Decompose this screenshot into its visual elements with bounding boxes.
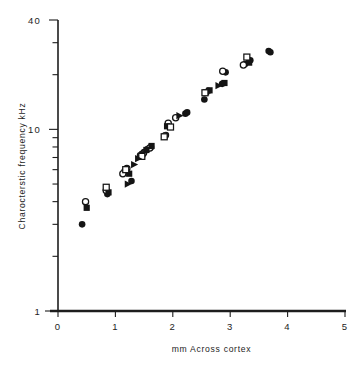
x-axis-tick-label: 5 — [342, 321, 348, 332]
data-point-open-square — [168, 124, 174, 130]
data-point-open-square — [103, 184, 109, 190]
data-point-open-circle — [82, 199, 88, 205]
y-axis-tick-label: 10 — [28, 124, 41, 135]
data-point-filled-circle — [79, 221, 86, 228]
y-axis-tick-label: 1 — [35, 306, 41, 317]
data-point-filled-square — [148, 143, 154, 149]
x-axis-title: mm Across cortex — [172, 344, 251, 354]
data-point-open-square — [244, 54, 250, 60]
data-point-open-circle — [220, 68, 226, 74]
x-axis-tick-label: 3 — [227, 321, 233, 332]
x-axis-tick-label: 2 — [170, 321, 176, 332]
data-point-filled-circle — [201, 96, 208, 103]
y-axis-tick-label: 40 — [28, 15, 41, 26]
tick-group — [45, 20, 345, 317]
x-axis-tick-label: 4 — [284, 321, 290, 332]
data-point-filled-circle — [184, 109, 191, 116]
figure-container: 40101012345 mm Across cortexCharoctersti… — [0, 0, 355, 369]
axes-group — [50, 20, 346, 311]
data-point-open-circle — [240, 62, 246, 68]
x-axis-tick-label: 0 — [55, 321, 61, 332]
y-axis-title: Charocterstic frequency kHz — [17, 103, 27, 230]
data-point-filled-square — [221, 80, 227, 86]
data-point-filled-circle — [267, 49, 274, 56]
x-axis-tick-label: 1 — [112, 321, 118, 332]
axis-title-group: mm Across cortexCharocterstic frequency … — [17, 103, 251, 354]
data-point-filled-triangle — [131, 161, 138, 168]
data-point-open-square — [161, 134, 167, 140]
tick-label-group: 40101012345 — [28, 15, 348, 332]
data-point-open-square — [202, 90, 208, 96]
scatter-plot: 40101012345 mm Across cortexCharoctersti… — [0, 0, 355, 369]
data-point-group — [79, 48, 274, 228]
data-point-open-square — [123, 167, 129, 173]
data-point-filled-square — [84, 205, 90, 211]
